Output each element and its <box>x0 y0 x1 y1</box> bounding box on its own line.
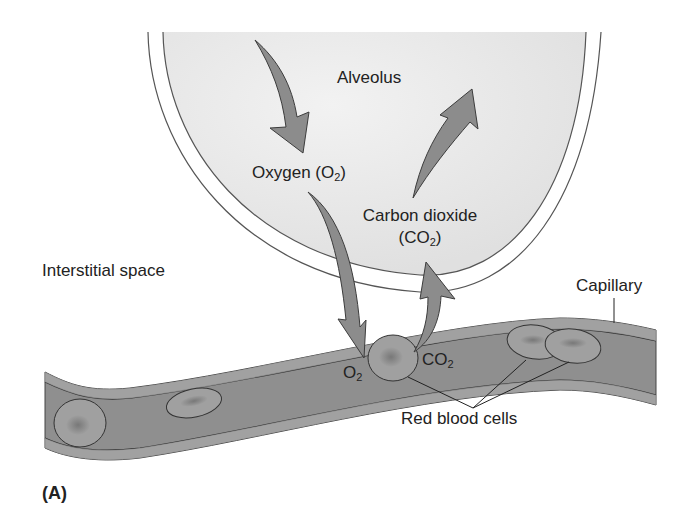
co2-label-prefix: (CO <box>399 228 430 247</box>
red-blood-cells-label-text: Red blood cells <box>401 409 517 428</box>
carbon-dioxide-label: Carbon dioxide (CO2) <box>350 206 490 248</box>
co2-at-cell-subscript: 2 <box>448 358 454 370</box>
oxygen-label-text: Oxygen (O <box>252 163 334 182</box>
interstitial-space-label-text: Interstitial space <box>42 261 165 280</box>
red-blood-cells-label: Red blood cells <box>401 409 517 429</box>
panel-label: (A) <box>42 483 67 504</box>
co2-label-suffix: ) <box>436 228 442 247</box>
red-blood-cell-1 <box>54 399 106 447</box>
capillary-label: Capillary <box>576 276 642 296</box>
carbon-dioxide-label-line2: (CO2) <box>350 228 490 248</box>
red-blood-cell-3 <box>368 335 418 381</box>
interstitial-space-label: Interstitial space <box>42 261 165 281</box>
o2-at-cell-text: O <box>343 363 356 382</box>
o2-at-cell-label: O2 <box>343 363 362 383</box>
carbon-dioxide-label-line1: Carbon dioxide <box>350 206 490 226</box>
gas-exchange-diagram: Alveolus Oxygen (O2) Carbon dioxide (CO2… <box>0 0 695 516</box>
alveolus-label-text: Alveolus <box>337 68 401 87</box>
alveolus-label: Alveolus <box>337 68 401 88</box>
oxygen-label-suffix: ) <box>340 163 346 182</box>
o2-at-cell-subscript: 2 <box>356 371 362 383</box>
oxygen-label: Oxygen (O2) <box>252 163 346 183</box>
capillary-label-text: Capillary <box>576 276 642 295</box>
panel-label-text: (A) <box>42 483 67 503</box>
co2-at-cell-text: CO <box>422 350 448 369</box>
co2-at-cell-label: CO2 <box>422 350 454 370</box>
